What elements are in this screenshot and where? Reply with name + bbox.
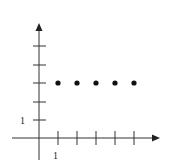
x-tick-label-1: 1 [53,150,58,161]
data-point [112,80,117,85]
data-point [131,80,136,85]
data-point [93,80,98,85]
y-axis-arrow-icon [36,23,43,31]
x-axis-arrow-icon [152,135,160,142]
chart: 1 1 [0,0,170,164]
data-point [55,80,60,85]
y-tick-label-1: 1 [20,115,25,126]
data-point [74,80,79,85]
data-points [55,80,136,85]
